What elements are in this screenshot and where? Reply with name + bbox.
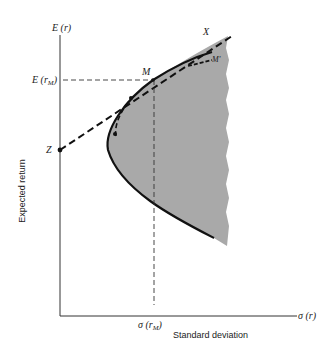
market-point-label: M <box>142 66 150 77</box>
x-axis-label: Standard deviation <box>173 330 248 340</box>
efficient-frontier-diagram: E (r) E (rM) Z M M' X σ (r) σ (rM) Expec… <box>0 0 330 357</box>
tangent-point <box>129 96 133 100</box>
market-return-close: ) <box>54 74 57 85</box>
y-axis-symbol: E (r) <box>52 22 71 33</box>
market-sd-close: ) <box>159 319 162 330</box>
y-axis-label: Expected return <box>17 151 27 231</box>
x-axis-symbol: σ (r) <box>298 310 316 321</box>
market-return-label: E (rM) <box>32 74 57 87</box>
risk-free-label: Z <box>46 144 52 155</box>
point-m <box>151 78 155 82</box>
x-point-label: X <box>203 26 209 37</box>
point-z <box>58 148 63 153</box>
feasible-region <box>108 36 229 246</box>
market-sd-label: σ (rM) <box>138 319 162 332</box>
inner-point <box>113 132 117 136</box>
diagram-graphics <box>0 0 330 357</box>
market-return-text: E (r <box>32 74 48 85</box>
m-prime-label: M' <box>212 55 220 64</box>
market-sd-text: σ (r <box>138 319 153 330</box>
